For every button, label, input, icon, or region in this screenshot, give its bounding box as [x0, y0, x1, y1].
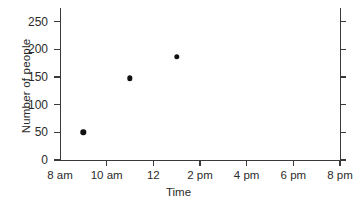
- plot-area: 050100150200250 8 am10 am122 pm4 pm6 pm8…: [60, 8, 340, 160]
- y-tick-label-200: 200: [28, 43, 48, 55]
- x-tick-3: [199, 160, 200, 166]
- x-axis-title: Time: [0, 186, 357, 198]
- y-axis-right-line: [340, 8, 341, 160]
- y-tick-label-100: 100: [28, 99, 48, 111]
- y-tick-right-50: [340, 132, 346, 133]
- y-tick-right-200: [340, 49, 346, 50]
- y-axis-title: Number of people: [20, 11, 32, 161]
- x-tick-1: [106, 160, 107, 166]
- data-point-3: [174, 54, 179, 59]
- y-tick-label-250: 250: [28, 16, 48, 28]
- x-tick-label-6: 8 pm: [327, 170, 353, 182]
- y-tick-100: [54, 104, 60, 105]
- y-tick-right-100: [340, 104, 346, 105]
- y-tick-250: [54, 21, 60, 22]
- x-tick-label-0: 8 am: [47, 170, 73, 182]
- x-tick-5: [293, 160, 294, 166]
- data-point-1: [81, 130, 86, 135]
- x-tick-label-2: 12: [147, 170, 160, 182]
- y-tick-label-150: 150: [28, 71, 48, 83]
- y-tick-label-50: 50: [35, 126, 48, 138]
- y-tick-right-0: [340, 159, 346, 160]
- y-tick-0: [54, 159, 60, 160]
- x-tick-4: [246, 160, 247, 166]
- y-tick-right-250: [340, 21, 346, 22]
- y-tick-50: [54, 132, 60, 133]
- x-tick-label-4: 4 pm: [234, 170, 260, 182]
- x-tick-label-5: 6 pm: [281, 170, 307, 182]
- x-tick-label-3: 2 pm: [187, 170, 213, 182]
- data-point-2: [127, 75, 132, 80]
- x-tick-2: [153, 160, 154, 166]
- y-axis-left-line: [60, 8, 61, 160]
- x-tick-6: [339, 160, 340, 166]
- y-tick-200: [54, 49, 60, 50]
- x-tick-label-1: 10 am: [91, 170, 123, 182]
- scatter-chart-figure: Number of people Time 050100150200250 8 …: [0, 0, 357, 204]
- y-tick-150: [54, 76, 60, 77]
- y-tick-label-0: 0: [41, 154, 48, 166]
- y-tick-right-150: [340, 76, 346, 77]
